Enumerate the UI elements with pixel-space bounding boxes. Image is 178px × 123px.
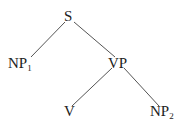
node-s: S [64, 9, 72, 24]
node-v: V [64, 104, 75, 119]
node-s-label: S [64, 8, 72, 24]
node-np2-label: NP [150, 103, 169, 119]
node-np1-label: NP [8, 55, 27, 71]
node-vp: VP [108, 56, 127, 71]
node-np1-subscript: 1 [27, 63, 32, 73]
edge-s-np1 [31, 22, 65, 57]
node-v-label: V [64, 103, 75, 119]
edge-vp-v [72, 68, 112, 106]
node-vp-label: VP [108, 55, 127, 71]
node-np2-subscript: 2 [169, 111, 174, 121]
node-np1: NP1 [8, 56, 32, 71]
node-np2: NP2 [150, 104, 174, 119]
edge-s-vp [74, 22, 115, 57]
edge-vp-np2 [124, 68, 159, 106]
